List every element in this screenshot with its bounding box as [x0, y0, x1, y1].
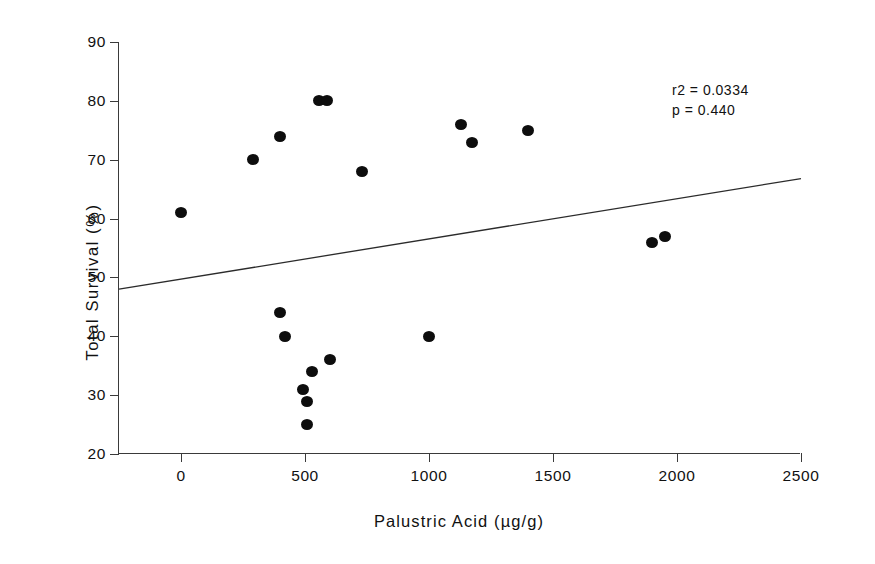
y-axis-tick-mark [110, 160, 119, 161]
x-axis-tick-mark [181, 453, 182, 462]
y-axis-tick-label: 60 [88, 210, 106, 228]
x-axis-tick-mark [305, 453, 306, 462]
y-axis-tick-mark [110, 42, 119, 43]
x-axis-tick-label: 2500 [783, 467, 820, 485]
data-point [466, 137, 478, 148]
y-axis-tick-mark [110, 454, 119, 455]
y-axis-tick-mark [110, 101, 119, 102]
data-point [279, 331, 291, 342]
x-axis-tick-mark [677, 453, 678, 462]
scatter-plot-figure: Total Survival (%) Palustric Acid (µg/g)… [0, 0, 875, 564]
data-point [274, 131, 286, 142]
data-point [297, 384, 309, 395]
x-axis-tick-mark [553, 453, 554, 462]
y-axis-tick-label: 50 [88, 268, 106, 286]
p-value-text: p = 0.440 [672, 100, 749, 120]
y-axis-tick-label: 40 [88, 327, 106, 345]
x-axis-tick-label: 2000 [659, 467, 696, 485]
y-axis-tick-label: 70 [88, 151, 106, 169]
y-axis-tick-label: 30 [88, 386, 106, 404]
y-axis-tick-mark [110, 336, 119, 337]
statistics-annotation: r2 = 0.0334 p = 0.440 [672, 80, 749, 121]
r-squared-text: r2 = 0.0334 [672, 80, 749, 100]
regression-trendline [119, 179, 801, 290]
data-point [356, 166, 368, 177]
data-point [659, 231, 671, 242]
data-point [423, 331, 435, 342]
x-axis-tick-label: 1000 [411, 467, 448, 485]
y-axis-tick-mark [110, 277, 119, 278]
y-axis-tick-mark [110, 219, 119, 220]
x-axis-tick-mark [801, 453, 802, 462]
x-axis-tick-mark [429, 453, 430, 462]
data-point [301, 396, 313, 407]
x-axis-tick-label: 0 [176, 467, 185, 485]
y-axis-tick-label: 80 [88, 92, 106, 110]
x-axis-tick-label: 1500 [535, 467, 572, 485]
data-point [646, 237, 658, 248]
x-axis-title: Palustric Acid (µg/g) [118, 512, 800, 531]
y-axis-tick-label: 20 [88, 445, 106, 463]
data-point [522, 125, 534, 136]
x-axis-tick-label: 500 [291, 467, 319, 485]
y-axis-tick-label: 90 [88, 33, 106, 51]
y-axis-tick-mark [110, 395, 119, 396]
